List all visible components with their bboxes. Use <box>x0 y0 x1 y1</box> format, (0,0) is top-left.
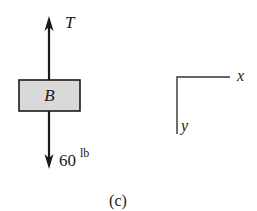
block-label: B <box>44 86 55 105</box>
y-axis-label: y <box>179 117 189 135</box>
tension-label: T <box>65 13 76 32</box>
weight-unit: lb <box>80 146 89 160</box>
weight-magnitude: 60 <box>59 151 76 170</box>
figure-caption: (c) <box>109 192 127 210</box>
free-body-diagram: T B 60 lb x y (c) <box>0 0 257 211</box>
tension-arrow <box>45 16 54 80</box>
x-axis-label: x <box>236 67 244 84</box>
weight-arrow <box>45 111 54 169</box>
